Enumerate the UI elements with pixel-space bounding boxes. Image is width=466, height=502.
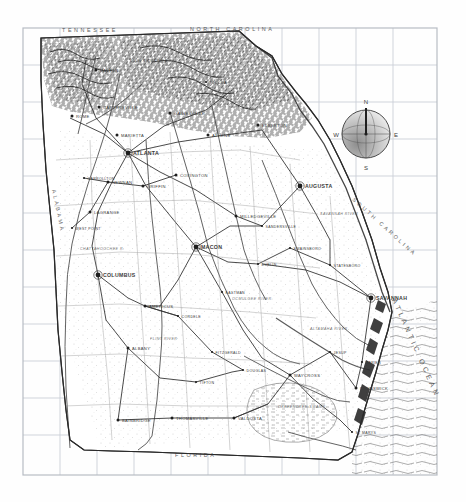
city-label: SANDERSVILLE (266, 225, 297, 229)
city-marker (257, 124, 260, 127)
city-label: FITZGERALD (216, 351, 241, 355)
feature-label: OKEFENOKEE SWAMP (278, 405, 325, 409)
city-marker (116, 134, 119, 137)
city-label: JESUP (334, 351, 347, 355)
compass-east-label: E (394, 132, 398, 138)
city-marker (361, 361, 363, 363)
city-label: LAGRANGE (94, 210, 120, 215)
city-marker (169, 112, 172, 115)
city-marker (369, 296, 374, 301)
feature-label: SAVANNAH RIVER (320, 212, 358, 216)
city-marker (71, 227, 73, 229)
city-label: BRUNSWICK (360, 386, 388, 391)
city-marker (195, 381, 197, 383)
feature-label: ALTAMAHA RIVER (309, 327, 348, 331)
compass-pivot (364, 132, 367, 135)
compass-south-label: S (364, 165, 368, 171)
feature-label: FLINT RIVER (150, 337, 177, 341)
city-label: MARIETTA (121, 133, 144, 138)
city-label: GRIFFIN (147, 184, 166, 189)
city-label: CARTERSVILLE (103, 105, 138, 110)
city-marker (257, 263, 259, 265)
city-marker (71, 115, 74, 118)
city-marker (211, 351, 213, 353)
city-marker (298, 184, 303, 189)
city-marker (194, 245, 199, 250)
city-marker (329, 351, 331, 353)
city-marker (83, 177, 85, 179)
city-marker (175, 174, 178, 177)
city-marker (355, 387, 358, 390)
city-label: MACON (201, 244, 222, 250)
city-marker (289, 374, 292, 377)
city-marker (117, 419, 120, 422)
city-marker (329, 264, 331, 266)
city-label: EASTMAN (226, 291, 245, 295)
city-marker (235, 215, 238, 218)
city-label: CORDELE (182, 315, 202, 319)
city-label: TIFTON (200, 381, 215, 385)
city-label: WAYCROSS (294, 373, 320, 378)
city-marker (289, 247, 291, 249)
city-marker (242, 369, 244, 371)
city-marker (261, 225, 263, 227)
city-marker (126, 151, 131, 156)
city-label: ROME (76, 114, 90, 119)
city-marker (233, 417, 236, 420)
city-label: AUGUSTA (305, 183, 333, 189)
city-label: VALDOSTA (238, 416, 262, 421)
city-label: DALTON (100, 68, 118, 73)
city-marker (177, 315, 179, 317)
city-marker (107, 181, 110, 184)
city-label: THOMASVILLE (176, 416, 209, 421)
city-label: GAINESVILLE (174, 111, 204, 116)
city-label: COLUMBUS (103, 272, 136, 278)
city-label: COVINGTON (180, 173, 208, 178)
city-label: DARIEN (366, 361, 381, 365)
city-label: NEWNAN (112, 180, 132, 185)
compass-north-label: N (364, 99, 368, 105)
city-marker (142, 185, 145, 188)
georgia-map-svg: ATLANTAAUGUSTAMACONSAVANNAHCOLUMBUSMILLE… (0, 0, 466, 502)
city-marker (221, 291, 223, 293)
city-label: WEST POINT (76, 227, 102, 231)
feature-label: BLUE RIDGE MTS (130, 59, 167, 63)
feature-label: CHATTAHOOCHEE R. (80, 247, 125, 251)
city-label: MILLEDGEVILLE (240, 214, 276, 219)
neighbor-state-label: FLORIDA (175, 452, 217, 458)
city-marker (207, 134, 210, 137)
compass-west-label: W (333, 132, 339, 138)
city-marker (171, 417, 174, 420)
city-marker (205, 81, 207, 83)
city-marker (95, 69, 98, 72)
city-label: TOCCOA (210, 81, 227, 85)
city-label: CARROLLTON (88, 177, 115, 181)
city-label: DUBLIN (262, 263, 277, 267)
city-label: STATESBORO (334, 264, 361, 268)
city-marker (144, 305, 147, 308)
city-label: ATHENS (212, 133, 230, 138)
city-label: DOUGLAS (247, 369, 267, 373)
city-marker (98, 106, 101, 109)
neighbor-state-label: TENNESSEE (62, 27, 118, 33)
city-marker (127, 347, 130, 350)
city-label: AMERICUS (149, 304, 173, 309)
city-marker (89, 211, 92, 214)
feature-label: OCMULGEE RIVER (232, 297, 272, 301)
map-canvas: ATLANTAAUGUSTAMACONSAVANNAHCOLUMBUSMILLE… (0, 0, 466, 502)
city-marker (351, 431, 353, 433)
city-marker (96, 273, 101, 278)
city-label: SWAINSBORO (294, 247, 321, 251)
neighbor-state-label: NORTH CAROLINA (190, 26, 275, 32)
city-label: ALBANY (132, 346, 150, 351)
city-label: ELBERTON (262, 123, 287, 128)
city-label: BAINBRIDGE (122, 418, 151, 423)
city-label: ATLANTA (133, 150, 159, 156)
city-label: ST MARYS (356, 431, 377, 435)
